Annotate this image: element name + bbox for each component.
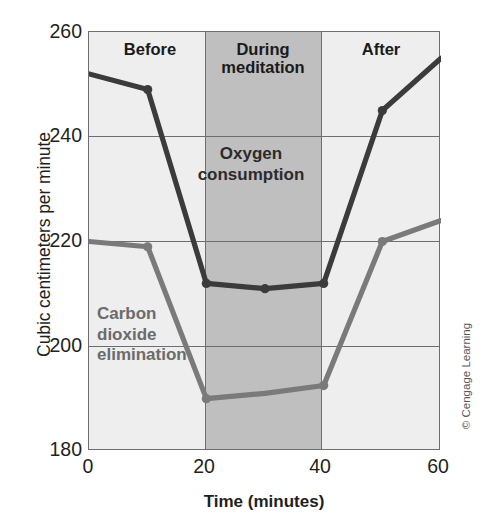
chart-figure: Cubic centimeters per minute 260 240 220… xyxy=(0,0,488,526)
data-point-marker xyxy=(378,237,387,246)
y-tick-240: 240 xyxy=(28,124,82,147)
data-point-marker xyxy=(143,85,152,94)
y-axis-ticks: 260 240 220 200 180 xyxy=(24,0,82,526)
series-co2 xyxy=(89,221,441,404)
plot-area: Before During meditation After Oxygen co… xyxy=(88,31,440,450)
data-point-marker xyxy=(319,279,328,288)
data-point-marker xyxy=(202,279,211,288)
data-point-marker xyxy=(260,284,269,293)
series-line xyxy=(89,58,441,288)
x-tick-60: 60 xyxy=(408,455,468,478)
series-line xyxy=(89,221,441,399)
x-tick-20: 20 xyxy=(174,455,234,478)
data-point-marker xyxy=(143,242,152,251)
x-tick-40: 40 xyxy=(290,455,350,478)
y-tick-200: 200 xyxy=(28,334,82,357)
data-point-marker xyxy=(378,106,387,115)
data-point-marker xyxy=(319,381,328,390)
series-plot-lines xyxy=(89,32,441,451)
x-tick-0: 0 xyxy=(58,455,118,478)
data-point-marker xyxy=(202,394,211,403)
series-oxygen xyxy=(89,58,441,293)
copyright-notice: © Cengage Learning xyxy=(460,296,472,456)
y-tick-220: 220 xyxy=(28,229,82,252)
y-tick-260: 260 xyxy=(28,20,82,43)
x-axis-title: Time (minutes) xyxy=(88,492,440,512)
